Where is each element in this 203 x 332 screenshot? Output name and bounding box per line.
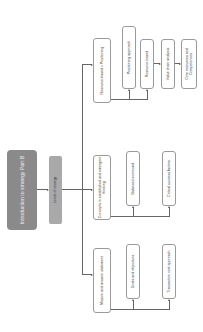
arrow-icon — [128, 89, 130, 91]
leaf-transaction-cost: Transaction cost approach — [162, 244, 176, 299]
connector — [133, 300, 134, 310]
branch-node-resource-positioning: Resource-based v Positioning — [93, 38, 111, 103]
level-node: Levels of strategy — [49, 156, 62, 224]
leaf-label: Transaction cost approach — [167, 250, 171, 292]
leaf-label: Resource-based — [145, 51, 149, 77]
connector — [147, 90, 148, 100]
leaf-positioning-approach: Positioning approach — [122, 26, 136, 89]
leaf-core-resources-competences: Core resources and Competences — [181, 39, 197, 89]
connector — [169, 207, 170, 217]
strategy-diagram: Introduction to strategy Part B Levels o… — [0, 0, 203, 332]
branch-label: Resource-based v Positioning — [100, 47, 104, 95]
leaf-label: Value chain analysis — [166, 48, 170, 81]
leaf-balanced-scorecard: Balanced scorecard — [126, 151, 140, 206]
arrow-icon — [132, 206, 134, 208]
arrow-icon — [132, 299, 134, 301]
branch-label: Mission and mission statement — [100, 256, 104, 305]
level-label: Levels of strategy — [53, 177, 57, 204]
connector — [129, 90, 130, 100]
branch-label: Concepts in established and emergent thi… — [98, 156, 106, 219]
leaf-label: Core resources and Competences — [185, 40, 193, 88]
leaf-label: Goals and objectives — [131, 255, 135, 288]
branch-node-concepts: Concepts in established and emergent thi… — [93, 155, 111, 220]
connector — [111, 309, 169, 310]
root-node: Introduction to strategy Part B — [7, 150, 37, 230]
leaf-value-chain-analysis: Value chain analysis — [161, 39, 175, 89]
arrow-icon — [168, 299, 170, 301]
branch-node-mission: Mission and mission statement — [93, 248, 111, 313]
leaf-label: Critical success factors — [167, 160, 171, 197]
root-label: Introduction to strategy Part B — [19, 156, 25, 225]
leaf-critical-success-factors: Critical success factors — [162, 151, 176, 206]
connector — [82, 65, 83, 275]
leaf-goals-objectives: Goals and objectives — [126, 244, 140, 299]
leaf-label: Positioning approach — [127, 41, 131, 75]
leaf-label: Balanced scorecard — [131, 163, 135, 195]
connector — [62, 190, 82, 191]
arrow-icon — [146, 89, 148, 91]
connector — [111, 216, 169, 217]
leaf-resource-based: Resource-based — [140, 39, 154, 89]
arrow-icon — [168, 206, 170, 208]
connector — [133, 207, 134, 217]
connector — [169, 300, 170, 310]
